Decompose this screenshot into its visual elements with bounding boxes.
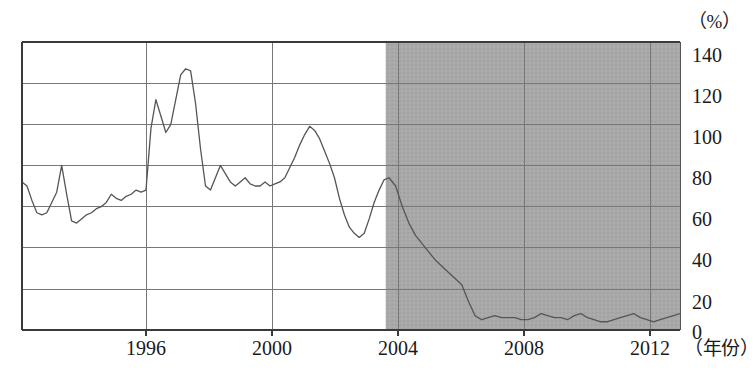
x-tick-label-2000: 2000	[232, 338, 312, 358]
x-tick-label-2012: 2012	[610, 338, 690, 358]
x-tick-label-2004: 2004	[358, 338, 438, 358]
x-axis-unit-label: （年份）	[684, 339, 755, 358]
y-tick-label-120: 120	[692, 86, 722, 106]
y-tick-label-100: 100	[692, 127, 722, 147]
y-tick-label-40: 40	[692, 250, 712, 270]
x-tick-label-1996: 1996	[106, 338, 186, 358]
chart-figure: （%） 140 120 100 80 60 40 20 0 1996 2000 …	[0, 0, 755, 371]
y-tick-label-20: 20	[692, 292, 712, 312]
x-tick-label-2008: 2008	[484, 338, 564, 358]
line-chart-canvas	[0, 0, 755, 371]
y-tick-label-140: 140	[692, 45, 722, 65]
y-axis-unit-label: （%）	[688, 12, 740, 31]
y-tick-label-80: 80	[692, 168, 712, 188]
shaded-region	[386, 42, 680, 330]
y-tick-label-60: 60	[692, 209, 712, 229]
